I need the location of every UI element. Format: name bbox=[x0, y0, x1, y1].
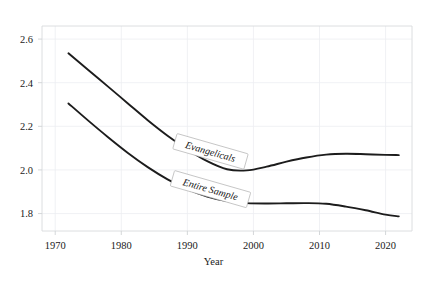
x-tick-label-1980: 1980 bbox=[111, 240, 132, 251]
y-tick-label-2.4: 2.4 bbox=[20, 78, 34, 89]
y-tick-label-2.6: 2.6 bbox=[20, 34, 33, 45]
x-tick-label-1970: 1970 bbox=[45, 240, 66, 251]
y-tick-label-2.0: 2.0 bbox=[20, 165, 33, 176]
x-tick-label-2010: 2010 bbox=[309, 240, 330, 251]
x-tick-label-2020: 2020 bbox=[375, 240, 396, 251]
x-tick-label-2000: 2000 bbox=[243, 240, 264, 251]
y-tick-label-2.2: 2.2 bbox=[20, 121, 33, 132]
x-axis-title: Year bbox=[204, 256, 224, 267]
line-chart: 1.82.02.22.42.6 197019801990200020102020… bbox=[0, 0, 427, 290]
y-tick-label-1.8: 1.8 bbox=[20, 208, 33, 219]
x-tick-label-1990: 1990 bbox=[177, 240, 198, 251]
chart-figure: 1.82.02.22.42.6 197019801990200020102020… bbox=[0, 0, 427, 290]
